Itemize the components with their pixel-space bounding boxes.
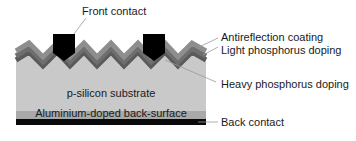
label-front-contact: Front contact bbox=[82, 5, 146, 18]
leader-front-contact bbox=[74, 18, 86, 34]
label-heavy-phosphorus-doping: Heavy phosphorus doping bbox=[221, 78, 349, 91]
label-antireflection-coating: Antireflection coating bbox=[221, 31, 323, 44]
label-light-phosphorus-doping: Light phosphorus doping bbox=[221, 44, 341, 57]
solar-cell-diagram: Front contact Antireflection coating Lig… bbox=[0, 0, 356, 141]
label-back-contact: Back contact bbox=[221, 116, 284, 129]
label-p-silicon-substrate: p-silicon substrate bbox=[16, 87, 206, 100]
label-aluminium-back-surface: Aluminium-doped back-surface bbox=[16, 107, 206, 120]
leader-antireflection bbox=[199, 38, 218, 47]
